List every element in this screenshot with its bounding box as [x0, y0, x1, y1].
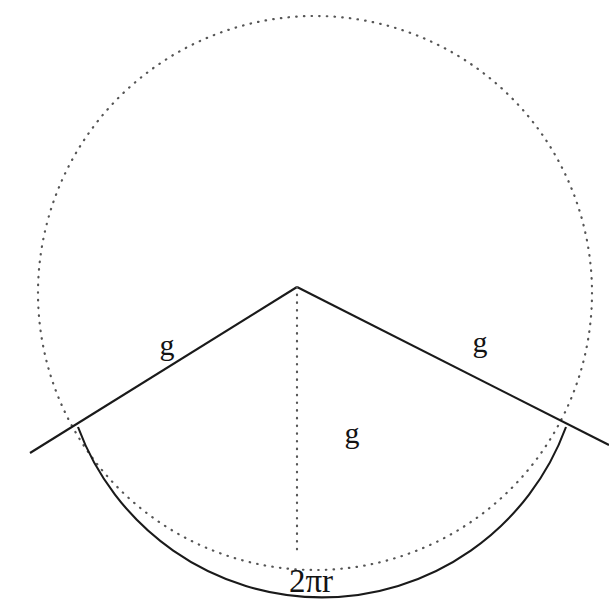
label-slant-left-g: g: [160, 328, 175, 361]
geometry-figure: g g g 2πr: [0, 0, 609, 599]
label-slant-right-g: g: [473, 325, 488, 358]
cone-net-diagram: g g g 2πr: [0, 0, 609, 599]
label-base-arc-length: 2πr: [289, 563, 333, 599]
label-axis-center-g: g: [345, 416, 360, 449]
